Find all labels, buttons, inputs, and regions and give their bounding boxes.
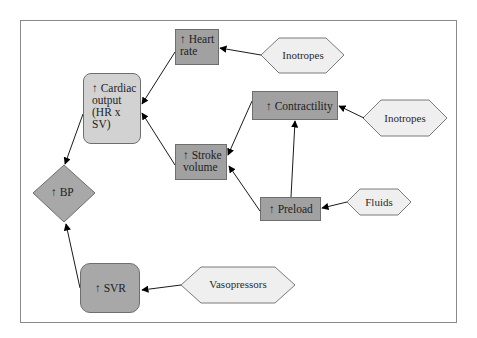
fluids-label: Fluids bbox=[347, 196, 411, 208]
svr-label: ↑ SVR bbox=[95, 282, 126, 294]
edge-preload-to-stroke-volume bbox=[229, 166, 260, 211]
cardiac-output-label: ↑ Cardiac output (HR x SV) bbox=[92, 82, 136, 130]
edge-heart-rate-to-cardiac-output bbox=[142, 52, 175, 104]
contractility-label: ↑ Contractility bbox=[266, 100, 333, 112]
edge-fluids-to-preload bbox=[322, 202, 347, 208]
heart-rate-node: ↑ Heart rate bbox=[175, 29, 219, 65]
svr-node: ↑ SVR bbox=[80, 263, 140, 313]
edge-stroke-volume-to-cardiac-output bbox=[142, 113, 175, 165]
contractility-node: ↑ Contractility bbox=[252, 91, 338, 120]
edge-preload-to-contractility bbox=[291, 121, 295, 197]
preload-label: ↑ Preload bbox=[269, 203, 313, 215]
edge-inotropes-to-contractility bbox=[339, 106, 364, 118]
edge-vasopressors-to-svr bbox=[142, 285, 181, 290]
edge-inotropes-to-heart-rate bbox=[220, 48, 261, 55]
edge-svr-to-bp bbox=[66, 224, 80, 288]
inotropes-right-label: Inotropes bbox=[363, 112, 447, 124]
edge-cardiac-output-to-bp bbox=[65, 114, 83, 164]
stroke-volume-node: ↑ Stroke volume bbox=[175, 144, 227, 180]
inotropes-top-label: Inotropes bbox=[261, 49, 345, 61]
stroke-volume-label: ↑ Stroke volume bbox=[183, 149, 222, 173]
edge-contractility-to-stroke-volume bbox=[228, 101, 252, 155]
heart-rate-label: ↑ Heart rate bbox=[180, 33, 214, 57]
vasopressors-label: Vasopressors bbox=[181, 278, 295, 290]
cardiac-output-node: ↑ Cardiac output (HR x SV) bbox=[83, 73, 141, 144]
bp-label: ↑ BP bbox=[51, 186, 74, 198]
preload-node: ↑ Preload bbox=[260, 197, 321, 221]
